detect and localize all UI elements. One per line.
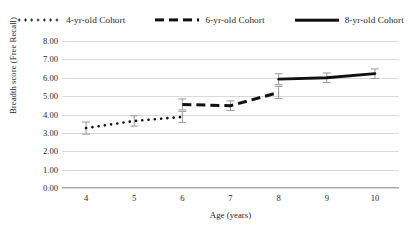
x-tick-label: 6 — [162, 193, 202, 203]
series-layer — [62, 41, 399, 188]
y-tick-label: 7.00 — [18, 54, 58, 64]
x-axis-title: Age (years) — [62, 210, 399, 220]
x-tick-label: 8 — [259, 193, 299, 203]
y-tick-label: 2.00 — [18, 146, 58, 156]
chart-container: 4-yr-old Cohort 6-yr-old Cohort 8-yr-old… — [0, 0, 420, 237]
y-axis-title: Breadth score (Free Recall) — [8, 17, 18, 114]
legend-label-6yr: 6-yr-old Cohort — [205, 15, 264, 25]
legend-swatch-solid-icon — [295, 15, 339, 25]
y-tick-label: 6.00 — [18, 73, 58, 83]
y-tick-label: 0.00 — [18, 183, 58, 193]
y-tick-label: 5.00 — [18, 91, 58, 101]
plot-area: 0.001.002.003.004.005.006.007.008.00 456… — [62, 41, 399, 188]
legend-swatch-dotted-icon — [16, 15, 60, 25]
y-tick-label: 1.00 — [18, 165, 58, 175]
gridline — [62, 188, 399, 189]
y-tick-label: 4.00 — [18, 110, 58, 120]
error-bar — [275, 86, 283, 98]
legend-item-4yr: 4-yr-old Cohort — [16, 15, 125, 25]
y-tick-label: 3.00 — [18, 128, 58, 138]
legend-label-8yr: 8-yr-old Cohort — [345, 15, 404, 25]
x-tick-label: 9 — [307, 193, 347, 203]
chart-legend: 4-yr-old Cohort 6-yr-old Cohort 8-yr-old… — [0, 10, 420, 30]
legend-swatch-dashed-icon — [155, 15, 199, 25]
x-tick-label: 4 — [66, 193, 106, 203]
legend-item-6yr: 6-yr-old Cohort — [155, 15, 264, 25]
legend-item-8yr: 8-yr-old Cohort — [295, 15, 404, 25]
x-tick-label: 5 — [114, 193, 154, 203]
y-tick-label: 8.00 — [18, 36, 58, 46]
legend-label-4yr: 4-yr-old Cohort — [66, 15, 125, 25]
x-tick-label: 7 — [211, 193, 251, 203]
x-tick-label: 10 — [355, 193, 395, 203]
